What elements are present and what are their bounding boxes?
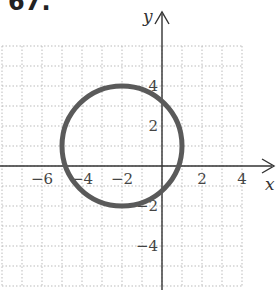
x-axis-label: x <box>265 174 275 194</box>
x-tick-label: −6 <box>31 170 53 188</box>
coordinate-plane: −6−4−22442−2−4 x y <box>0 0 277 296</box>
y-tick-label: 2 <box>148 117 158 135</box>
x-tick-label: 4 <box>237 170 247 188</box>
x-tick-label: −2 <box>111 170 133 188</box>
x-tick-label: 2 <box>197 170 207 188</box>
y-axis-label: y <box>142 6 153 26</box>
y-tick-label: −4 <box>136 237 158 255</box>
